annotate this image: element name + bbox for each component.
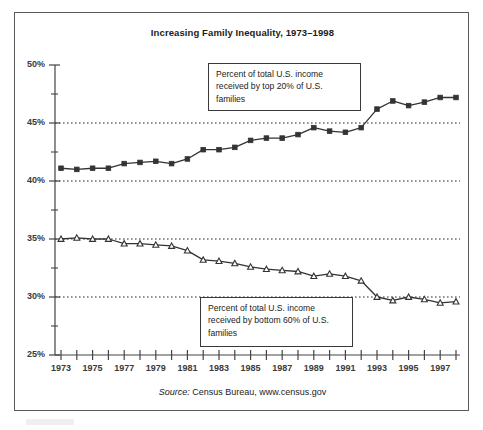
y-tick-label: 45% (13, 117, 45, 127)
x-tick-label: 1991 (330, 363, 360, 373)
source-label: Source: (159, 387, 190, 397)
x-tick-label: 1989 (299, 363, 329, 373)
x-tick-label: 1975 (78, 363, 108, 373)
x-tick-label: 1985 (236, 363, 266, 373)
y-tick-label: 35% (13, 233, 45, 243)
x-tick-label: 1981 (172, 363, 202, 373)
x-tick-label: 1995 (394, 363, 424, 373)
x-tick-label: 1973 (46, 363, 76, 373)
x-tick-label: 1997 (425, 363, 455, 373)
scan-artifact (26, 419, 74, 425)
x-tick-label: 1979 (141, 363, 171, 373)
annotation-bottom-60-percent: Percent of total U.S. income received by… (200, 297, 353, 347)
x-tick-label: 1987 (267, 363, 297, 373)
y-tick-label: 30% (13, 291, 45, 301)
source-note: Source: Census Bureau, www.census.gov (15, 387, 470, 397)
annotation-top-20-percent: Percent of total U.S. income received by… (208, 63, 361, 111)
y-tick-label: 40% (13, 175, 45, 185)
gridlines (55, 123, 460, 297)
source-text: Census Bureau, www.census.gov (190, 387, 327, 397)
y-tick-label: 50% (13, 59, 45, 69)
x-tick-label: 1993 (362, 363, 392, 373)
x-tick-label: 1977 (109, 363, 139, 373)
data-series (58, 95, 459, 305)
x-tick-label: 1983 (204, 363, 234, 373)
chart-figure: Increasing Family Inequality, 1973–1998 … (14, 12, 469, 411)
y-tick-label: 25% (13, 349, 45, 359)
